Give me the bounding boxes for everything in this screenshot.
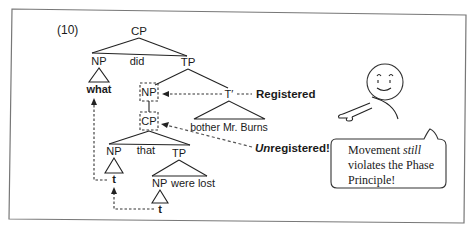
node-cp-embedded: CP [141, 115, 156, 127]
node-tp-main: TP [181, 56, 196, 68]
aux-did: did [130, 55, 145, 67]
node-tp-embedded: TP [172, 147, 186, 159]
vp-text: bother Mr. Burns [190, 121, 268, 133]
comp-that: that [137, 144, 155, 156]
node-t-bar: T′ [225, 88, 234, 100]
label-unregistered: Unregistered! [255, 142, 330, 154]
bubble-line-3: Principle! [348, 173, 395, 187]
node-np-wh: NP [91, 55, 106, 67]
trace-upper: t [112, 173, 116, 185]
node-np-spec: NP [141, 86, 156, 98]
node-np-lower: NP [152, 177, 167, 189]
bubble-line-1: Movement still [348, 143, 422, 157]
head-icon [367, 64, 403, 100]
label-registered: Registered [256, 88, 315, 100]
wh-word: what [85, 83, 111, 95]
node-cp-root: CP [131, 25, 147, 37]
node-np-embedded: NP [106, 145, 121, 157]
example-number: (10) [57, 23, 78, 37]
trace-lower: t [158, 203, 162, 215]
figure-canvas: (10) CP NP what did TP NP CP T′ bother M… [0, 0, 474, 233]
bubble-line-2: violates the Phase [348, 158, 434, 172]
were-lost: were lost [170, 177, 215, 189]
